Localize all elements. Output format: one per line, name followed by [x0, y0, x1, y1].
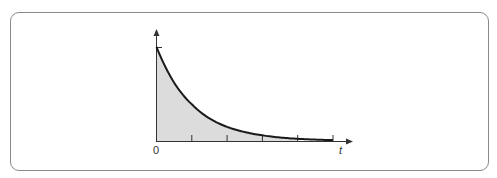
decay-chart: 0 t — [0, 0, 497, 178]
origin-label: 0 — [153, 144, 159, 156]
x-axis-label: t — [339, 144, 343, 156]
